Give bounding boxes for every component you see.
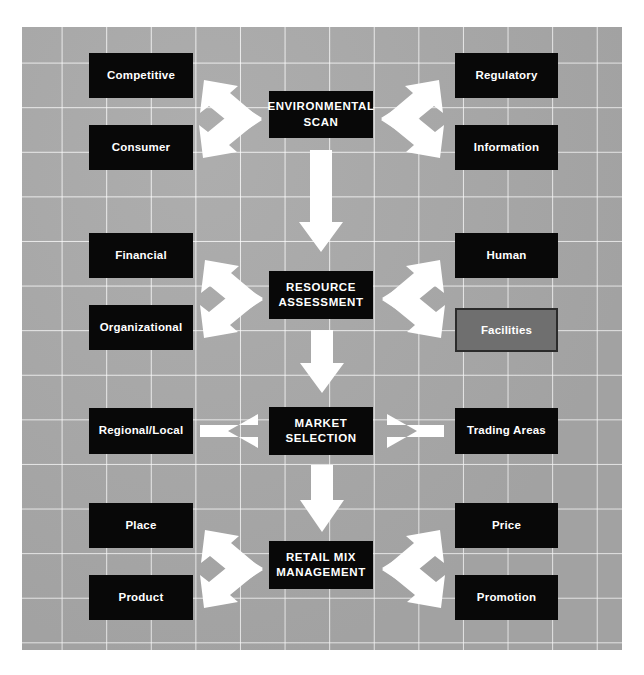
node-product-label: Product bbox=[119, 591, 164, 605]
node-price[interactable]: Price bbox=[455, 503, 558, 548]
node-consumer-label: Consumer bbox=[112, 141, 170, 155]
stage-environmental-scan[interactable]: ENVIRONMENTAL SCAN bbox=[269, 91, 373, 138]
node-trading-areas-label: Trading Areas bbox=[467, 424, 546, 438]
node-financial[interactable]: Financial bbox=[89, 233, 193, 278]
diagram-canvas: Competitive Consumer ENVIRONMENTAL SCAN … bbox=[0, 0, 644, 675]
node-promotion[interactable]: Promotion bbox=[455, 575, 558, 620]
node-organizational[interactable]: Organizational bbox=[89, 305, 193, 350]
node-trading-areas[interactable]: Trading Areas bbox=[455, 408, 558, 454]
node-human-label: Human bbox=[487, 249, 527, 263]
node-product[interactable]: Product bbox=[89, 575, 193, 620]
node-competitive-label: Competitive bbox=[107, 69, 175, 83]
node-consumer[interactable]: Consumer bbox=[89, 125, 193, 170]
stage-retail-mix-management[interactable]: RETAIL MIX MANAGEMENT bbox=[269, 541, 373, 589]
stage-market-selection-line2: SELECTION bbox=[285, 431, 356, 446]
stage-resource-assessment-line2: ASSESSMENT bbox=[278, 295, 363, 310]
node-competitive[interactable]: Competitive bbox=[89, 53, 193, 98]
stage-environmental-scan-line1: ENVIRONMENTAL bbox=[267, 99, 374, 114]
stage-market-selection-line1: MARKET bbox=[295, 416, 348, 431]
node-place-label: Place bbox=[125, 519, 156, 533]
node-regulatory[interactable]: Regulatory bbox=[455, 53, 558, 98]
node-facilities-label: Facilities bbox=[481, 324, 532, 336]
stage-retail-mix-management-line2: MANAGEMENT bbox=[276, 565, 366, 580]
node-promotion-label: Promotion bbox=[477, 591, 536, 605]
node-organizational-label: Organizational bbox=[100, 321, 183, 335]
stage-resource-assessment[interactable]: RESOURCE ASSESSMENT bbox=[269, 271, 373, 319]
node-information-label: Information bbox=[474, 141, 539, 155]
node-regional-local-label: Regional/Local bbox=[99, 424, 184, 438]
stage-retail-mix-management-line1: RETAIL MIX bbox=[286, 550, 356, 565]
node-facilities[interactable]: Facilities bbox=[455, 308, 558, 352]
node-place[interactable]: Place bbox=[89, 503, 193, 548]
node-regional-local[interactable]: Regional/Local bbox=[89, 408, 193, 454]
node-financial-label: Financial bbox=[115, 249, 167, 263]
node-price-label: Price bbox=[492, 519, 521, 533]
node-human[interactable]: Human bbox=[455, 233, 558, 278]
stage-resource-assessment-line1: RESOURCE bbox=[286, 280, 356, 295]
node-information[interactable]: Information bbox=[455, 125, 558, 170]
node-regulatory-label: Regulatory bbox=[475, 69, 537, 83]
stage-environmental-scan-line2: SCAN bbox=[304, 115, 339, 130]
stage-market-selection[interactable]: MARKET SELECTION bbox=[269, 407, 373, 455]
